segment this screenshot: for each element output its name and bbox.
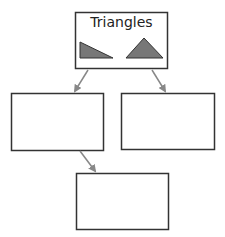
flowchart xyxy=(0,0,225,237)
arrow-to-left xyxy=(75,70,88,91)
top-box-title: Triangles xyxy=(75,14,168,30)
right-box xyxy=(122,94,215,150)
arrow-to-bottom xyxy=(80,151,95,171)
bottom-box xyxy=(77,174,169,230)
arrow-to-right xyxy=(152,70,165,91)
left-box xyxy=(12,94,104,151)
